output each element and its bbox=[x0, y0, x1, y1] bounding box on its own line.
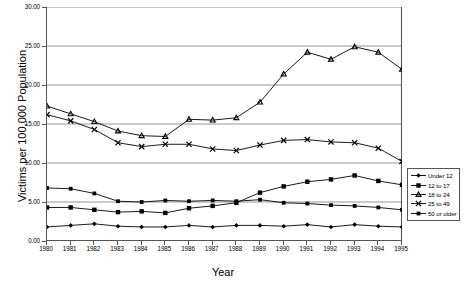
data-point-marker bbox=[417, 211, 421, 215]
x-tick-mark bbox=[401, 241, 402, 245]
data-point-marker bbox=[210, 225, 215, 230]
data-point-marker bbox=[163, 211, 167, 215]
legend-item-label: 18 to 24 bbox=[427, 191, 450, 198]
legend-item-label: 50 or older bbox=[427, 210, 456, 217]
data-point-marker bbox=[139, 225, 144, 230]
x-tick-mark bbox=[354, 241, 355, 245]
data-point-marker bbox=[68, 223, 73, 228]
data-point-marker bbox=[258, 190, 262, 194]
data-point-marker bbox=[116, 210, 120, 214]
y-tick-label: 0.00 bbox=[6, 237, 40, 244]
data-point-marker bbox=[210, 204, 214, 208]
series-12-to-17 bbox=[47, 173, 402, 215]
series-line bbox=[47, 115, 402, 162]
y-tick-label: 10.00 bbox=[6, 159, 40, 166]
x-tick-mark bbox=[164, 241, 165, 245]
y-tick-label: 20.00 bbox=[6, 81, 40, 88]
legend-item-label: Under 12 bbox=[427, 172, 453, 179]
y-tick-label: 30.00 bbox=[6, 3, 40, 10]
line-chart: Victims per 100,000 Population 0.005.001… bbox=[0, 0, 470, 291]
series-50-or-older bbox=[47, 186, 402, 212]
data-point-marker bbox=[69, 187, 73, 191]
data-point-marker bbox=[400, 208, 402, 212]
data-point-marker bbox=[258, 223, 263, 228]
data-point-marker bbox=[68, 118, 73, 123]
legend-item-label: 12 to 17 bbox=[427, 182, 450, 189]
data-point-marker bbox=[281, 184, 285, 188]
legend-marker-icon bbox=[410, 181, 427, 190]
legend-marker-icon bbox=[410, 209, 427, 218]
legend-marker-icon bbox=[410, 190, 427, 199]
data-point-marker bbox=[305, 202, 309, 206]
y-tick-label: 15.00 bbox=[6, 120, 40, 127]
data-point-marker bbox=[282, 201, 286, 205]
x-tick-mark bbox=[188, 241, 189, 245]
data-point-marker bbox=[187, 206, 191, 210]
data-point-marker bbox=[116, 199, 120, 203]
data-point-marker bbox=[47, 205, 49, 209]
x-tick-mark bbox=[212, 241, 213, 245]
legend-item[interactable]: 50 or older bbox=[410, 209, 456, 218]
data-point-marker bbox=[400, 225, 402, 230]
data-point-marker bbox=[416, 183, 420, 187]
data-point-marker bbox=[92, 127, 97, 132]
data-point-marker bbox=[352, 222, 357, 227]
legend-item[interactable]: 25 to 49 bbox=[410, 199, 456, 208]
data-point-marker bbox=[281, 224, 286, 229]
data-point-marker bbox=[305, 222, 310, 227]
data-point-marker bbox=[352, 173, 356, 177]
data-point-marker bbox=[376, 206, 380, 210]
data-point-marker bbox=[353, 204, 357, 208]
data-point-marker bbox=[163, 199, 167, 203]
x-tick-mark bbox=[141, 241, 142, 245]
x-tick-mark bbox=[117, 241, 118, 245]
y-tick-label: 25.00 bbox=[6, 42, 40, 49]
data-point-marker bbox=[416, 173, 421, 178]
data-point-marker bbox=[376, 224, 381, 229]
data-point-marker bbox=[116, 224, 121, 229]
x-tick-mark bbox=[93, 241, 94, 245]
series-under-12 bbox=[47, 222, 402, 230]
data-point-marker bbox=[187, 199, 191, 203]
x-tick-mark bbox=[283, 241, 284, 245]
x-tick-mark bbox=[259, 241, 260, 245]
data-point-marker bbox=[329, 225, 334, 230]
series-line bbox=[47, 188, 402, 210]
data-point-marker bbox=[47, 186, 49, 190]
series-line bbox=[47, 175, 402, 212]
x-tick-mark bbox=[70, 241, 71, 245]
data-point-marker bbox=[234, 223, 239, 228]
data-point-marker bbox=[92, 222, 97, 227]
plot-svg bbox=[47, 7, 402, 241]
legend-item[interactable]: 18 to 24 bbox=[410, 190, 456, 199]
data-point-marker bbox=[163, 225, 168, 230]
data-point-marker bbox=[305, 180, 309, 184]
x-tick-mark bbox=[377, 241, 378, 245]
data-point-marker bbox=[187, 223, 192, 228]
legend-marker-icon bbox=[410, 199, 427, 208]
data-point-marker bbox=[139, 209, 143, 213]
legend-item[interactable]: Under 12 bbox=[410, 171, 456, 180]
series-25-to-49 bbox=[47, 112, 402, 164]
data-point-marker bbox=[400, 183, 402, 187]
x-tick-mark bbox=[330, 241, 331, 245]
x-tick-label: 1995 bbox=[381, 245, 421, 252]
data-point-marker bbox=[211, 199, 215, 203]
data-point-marker bbox=[329, 177, 333, 181]
x-tick-mark bbox=[306, 241, 307, 245]
data-point-marker bbox=[329, 203, 333, 207]
data-point-marker bbox=[92, 192, 96, 196]
legend-marker-icon bbox=[410, 171, 427, 180]
legend-item[interactable]: 12 to 17 bbox=[410, 180, 456, 189]
data-point-marker bbox=[47, 225, 49, 230]
data-point-marker bbox=[376, 179, 380, 183]
data-point-marker bbox=[68, 205, 72, 209]
data-point-marker bbox=[234, 199, 238, 203]
series-line bbox=[47, 224, 402, 227]
x-tick-mark bbox=[235, 241, 236, 245]
legend-item-label: 25 to 49 bbox=[427, 200, 450, 207]
data-point-marker bbox=[258, 198, 262, 202]
plot-area bbox=[46, 7, 401, 241]
data-point-marker bbox=[140, 200, 144, 204]
y-tick-label: 5.00 bbox=[6, 198, 40, 205]
